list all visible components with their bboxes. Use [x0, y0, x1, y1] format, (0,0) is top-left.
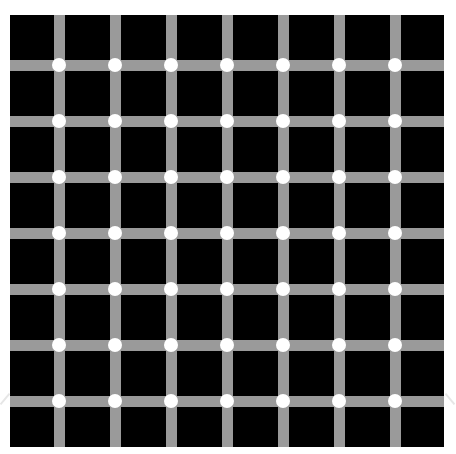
intersection-dot — [388, 114, 402, 128]
intersection-dot — [108, 114, 122, 128]
intersection-dot — [332, 394, 346, 408]
edge-artifact-left — [0, 393, 10, 405]
intersection-dot — [108, 170, 122, 184]
intersection-dot — [388, 170, 402, 184]
intersection-dot — [164, 226, 178, 240]
intersection-dot — [220, 226, 234, 240]
intersection-dot — [276, 170, 290, 184]
intersection-dot — [108, 338, 122, 352]
intersection-dot — [52, 338, 66, 352]
intersection-dot — [164, 114, 178, 128]
intersection-dot — [276, 114, 290, 128]
intersection-dot — [108, 58, 122, 72]
intersection-dot — [220, 170, 234, 184]
intersection-dot — [276, 338, 290, 352]
intersection-dot — [332, 114, 346, 128]
intersection-dot — [332, 338, 346, 352]
intersection-dot — [164, 338, 178, 352]
intersection-dot — [220, 282, 234, 296]
intersection-dot — [220, 114, 234, 128]
intersection-dot — [220, 58, 234, 72]
intersection-dot — [164, 58, 178, 72]
edge-artifact-right — [445, 393, 456, 405]
intersection-dot — [164, 170, 178, 184]
intersection-dot — [332, 282, 346, 296]
intersection-dot — [52, 394, 66, 408]
intersection-dot — [388, 338, 402, 352]
intersection-dot — [52, 170, 66, 184]
intersection-dot — [108, 226, 122, 240]
intersection-dot — [52, 58, 66, 72]
intersection-dot — [276, 394, 290, 408]
scintillating-grid — [10, 15, 444, 447]
intersection-dot — [332, 170, 346, 184]
intersection-dot — [388, 394, 402, 408]
intersection-dot — [388, 58, 402, 72]
intersection-dot — [276, 282, 290, 296]
intersection-dot — [52, 282, 66, 296]
intersection-dot — [332, 226, 346, 240]
intersection-dot — [332, 58, 346, 72]
intersection-dot — [220, 394, 234, 408]
intersection-dot — [164, 282, 178, 296]
intersection-dot — [388, 226, 402, 240]
intersection-dot — [52, 114, 66, 128]
intersection-dot — [388, 282, 402, 296]
intersection-dot — [108, 394, 122, 408]
intersection-dot — [108, 282, 122, 296]
intersection-dot — [52, 226, 66, 240]
intersection-dot — [276, 226, 290, 240]
intersection-dot — [276, 58, 290, 72]
intersection-dot — [164, 394, 178, 408]
intersection-dot — [220, 338, 234, 352]
